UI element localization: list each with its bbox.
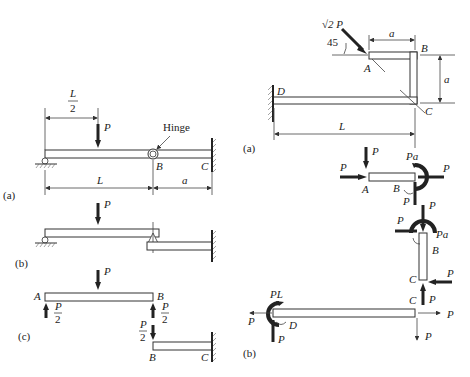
force-label: P: [446, 267, 454, 279]
beam-AC: [45, 150, 212, 158]
small-arrow: [404, 190, 413, 194]
member-CD: [273, 97, 417, 104]
force-label: P: [247, 315, 255, 327]
dim-a-vertical-label: a: [444, 73, 450, 85]
diagram-canvas: L 2 P Hinge B C L: [0, 0, 470, 377]
dim-L-label: L: [338, 120, 345, 132]
subfigure-label-a: (a): [3, 189, 16, 202]
point-C-label: C: [201, 160, 209, 172]
half-span-denominator: 2: [70, 102, 76, 114]
point-C-label: C: [409, 294, 417, 306]
point-C-label: C: [201, 351, 209, 363]
point-B-label: B: [393, 182, 400, 194]
angle-label: 45: [327, 36, 339, 48]
angle-arc: [344, 43, 346, 54]
arrowhead: [150, 333, 156, 340]
roller-support-icon: [42, 237, 48, 243]
subfigure-label-c: (c): [18, 330, 31, 343]
point-D-label: D: [276, 85, 285, 97]
wall-hatch: [213, 231, 216, 259]
subfigure-label-b: (b): [15, 257, 28, 270]
arrowhead: [428, 279, 436, 285]
free-body-AB: P P A Pa P P B: [339, 145, 450, 207]
arrowhead: [95, 140, 101, 148]
wall-hatch: [268, 86, 272, 120]
reaction-B-numerator: P: [161, 300, 169, 312]
wall-hatch: [213, 139, 216, 172]
arrowhead: [43, 303, 49, 310]
moment-label: Pa: [435, 228, 449, 240]
load-B-numerator: P: [139, 318, 147, 330]
force-label: P: [277, 333, 285, 345]
ground-hatch: [36, 164, 55, 168]
force-label: P: [424, 330, 432, 342]
point-D-label: D: [288, 319, 297, 331]
point-B-label: B: [421, 42, 428, 54]
half-span-numerator: L: [69, 87, 76, 99]
roller-support-icon: [42, 158, 48, 164]
force-label: P: [371, 145, 379, 157]
point-A-label: A: [363, 62, 371, 74]
hinge-pointer: [157, 136, 170, 149]
load-label-P: P: [103, 265, 111, 277]
force-label: P: [396, 214, 404, 226]
arrowhead: [420, 283, 426, 291]
load-label-P: P: [103, 121, 111, 133]
reaction-A-denominator: 2: [55, 313, 61, 325]
point-C-label: C: [409, 273, 417, 285]
arrowhead: [358, 174, 367, 180]
right-subfigure-b: P P A Pa P P B P Pa P B C: [243, 145, 454, 360]
beam-AB: [45, 229, 159, 237]
reaction-A-numerator: P: [54, 300, 62, 312]
left-subfigure-c: P A B P 2 P 2 P 2 B C (c): [18, 265, 216, 363]
moment-label: Pa: [405, 150, 419, 162]
hinge-icon: [148, 149, 158, 159]
arrowhead: [420, 224, 426, 232]
point-A-label: A: [33, 290, 41, 302]
point-C-label: C: [425, 105, 433, 117]
ground-hatch: [36, 243, 55, 247]
force-label: P: [446, 308, 454, 320]
arrowhead: [150, 303, 156, 310]
arrowhead: [95, 217, 101, 225]
force-label: P: [428, 293, 436, 305]
hinge-label: Hinge: [163, 121, 190, 133]
force-label: P: [402, 195, 410, 207]
moment-label: PL: [269, 288, 283, 300]
force-label: P: [442, 162, 450, 174]
member-AB: [369, 173, 415, 181]
reaction-B-denominator: 2: [162, 313, 168, 325]
span-L-label: L: [96, 174, 103, 186]
left-subfigure-b: P (b): [15, 198, 216, 270]
member-CD: [273, 309, 415, 317]
force-label: P: [339, 161, 347, 173]
load-B-denominator: 2: [140, 331, 146, 343]
left-subfigure-a: L 2 P Hinge B C L: [3, 87, 216, 202]
point-B-label: B: [432, 244, 439, 256]
span-a-label: a: [182, 174, 188, 186]
beam-BC: [147, 242, 212, 250]
force-label: P: [428, 199, 436, 211]
member-BC: [419, 233, 427, 280]
subfigure-label-b: (b): [243, 347, 256, 360]
arrowhead: [363, 161, 369, 169]
point-B-label: B: [149, 351, 156, 363]
load-label-P: P: [103, 198, 111, 210]
point-B-label: B: [156, 160, 163, 172]
free-body-BC: P Pa P B C P P: [395, 199, 454, 305]
beam-BC-free-body: [153, 342, 212, 350]
subfigure-label-a: (a): [243, 142, 256, 155]
member-BC: [410, 52, 417, 104]
dim-a-horizontal-label: a: [389, 27, 395, 39]
wall-hatch: [213, 333, 216, 361]
arrowhead: [95, 282, 101, 290]
inclined-load-label: √2 P: [322, 18, 343, 30]
point-A-label: A: [361, 183, 369, 195]
right-subfigure-a: √2 P 45 A B C D a a L (a): [243, 18, 455, 155]
